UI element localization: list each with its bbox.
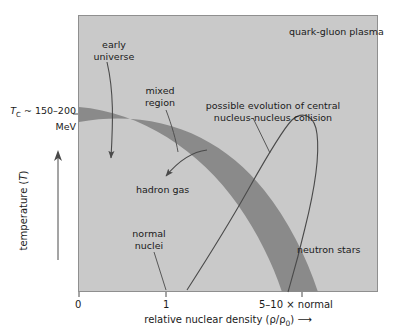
early-universe-line1: early xyxy=(102,39,126,50)
phase-boundary-band xyxy=(79,107,318,292)
region-label-neutron-stars: neutron stars xyxy=(297,244,361,256)
region-label-mixed-region: mixed region xyxy=(134,85,186,108)
normal-nuclei-line2: nuclei xyxy=(135,240,163,251)
critical-temperature-label: TC ~ 150–200 MeV xyxy=(4,105,76,133)
y-axis-title-tail: ) xyxy=(18,171,29,175)
xtick-label-1: 1 xyxy=(163,299,169,310)
early-universe-arrow xyxy=(107,62,112,158)
x-axis-title: relative nuclear density (ρ/ρ0) ⟶ xyxy=(78,314,378,328)
x-axis-title-tail: ) ⟶ xyxy=(290,314,311,325)
y-axis-title-main: temperature ( xyxy=(18,181,29,251)
region-label-hadron-gas: hadron gas xyxy=(136,184,189,196)
normal-nuclei-leader xyxy=(154,252,166,290)
y-axis-title: temperature (T) xyxy=(18,151,29,271)
qcd-phase-diagram-figure: TC ~ 150–200 MeV quark-gluon plasma earl… xyxy=(0,0,407,336)
evolution-line1: possible evolution of central xyxy=(206,100,340,111)
evolution-line2: nucleus-nucleus collision xyxy=(214,112,332,123)
annotation-evolution: possible evolution of central nucleus-nu… xyxy=(200,100,346,123)
early-universe-line2: universe xyxy=(94,51,135,62)
evolution-leader xyxy=(253,118,270,153)
mixed-region-line2: region xyxy=(145,97,175,108)
tc-value: ~ 150–200 xyxy=(21,105,76,116)
mixed-region-line1: mixed xyxy=(145,85,174,96)
xtick-label-0: 0 xyxy=(75,299,81,310)
region-label-normal-nuclei: normal nuclei xyxy=(120,228,178,251)
tc-unit: MeV xyxy=(55,121,76,132)
xtick-label-5-10-normal: 5–10 × normal xyxy=(259,299,333,310)
diagram-graphics xyxy=(0,0,407,336)
tc-symbol: TC xyxy=(10,105,21,116)
y-axis-title-symbol: T xyxy=(18,174,29,180)
region-label-quark-gluon-plasma: quark-gluon plasma xyxy=(289,26,384,38)
normal-nuclei-line1: normal xyxy=(132,228,165,239)
x-axis-title-main: relative nuclear density (ρ/ρ xyxy=(144,314,285,325)
region-label-early-universe: early universe xyxy=(85,39,143,62)
